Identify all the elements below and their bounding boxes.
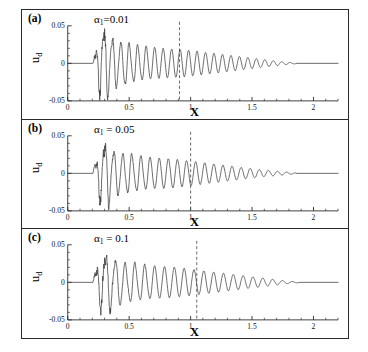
x-tick-label: 1	[189, 103, 193, 112]
x-tick-label: 0.5	[124, 103, 134, 112]
figure-container: (a) α1=0.01 ud X 0.050-0.0500.511.52 (b)…	[21, 9, 349, 339]
x-tick-label: 0	[66, 323, 70, 332]
x-tick-label: 1.5	[247, 213, 257, 222]
x-tick-label: 1.5	[247, 323, 257, 332]
y-tick-label: 0.05	[52, 21, 65, 30]
y-tick-label: 0.05	[52, 241, 65, 250]
panel-c: (c) α1 = 0.1 ud X 0.050-0.0500.511.52	[22, 228, 348, 338]
y-tick-label: 0	[61, 278, 65, 287]
x-tick-label: 0.5	[124, 323, 134, 332]
y-tick-label: -0.05	[49, 316, 65, 325]
panel-a: (a) α1=0.01 ud X 0.050-0.0500.511.52	[22, 10, 348, 119]
x-tick-label: 2	[312, 213, 316, 222]
x-tick-label: 1	[189, 323, 193, 332]
x-tick-label: 1.5	[247, 103, 257, 112]
y-tick-label: -0.05	[49, 206, 65, 215]
plot-area-c: 0.050-0.0500.511.52	[22, 229, 348, 338]
x-tick-label: 2	[312, 323, 316, 332]
x-tick-label: 0	[66, 103, 70, 112]
panel-b: (b) α1 = 0.05 ud X 0.050-0.0500.511.52	[22, 119, 348, 229]
y-tick-label: 0.05	[52, 131, 65, 140]
plot-area-a: 0.050-0.0500.511.52	[22, 10, 348, 119]
y-tick-label: 0	[61, 168, 65, 177]
plot-area-b: 0.050-0.0500.511.52	[22, 120, 348, 229]
x-tick-label: 0.5	[124, 213, 134, 222]
x-tick-label: 2	[312, 103, 316, 112]
y-tick-label: -0.05	[49, 96, 65, 105]
y-tick-label: 0	[61, 59, 65, 68]
x-tick-label: 0	[66, 213, 70, 222]
x-tick-label: 1	[189, 213, 193, 222]
